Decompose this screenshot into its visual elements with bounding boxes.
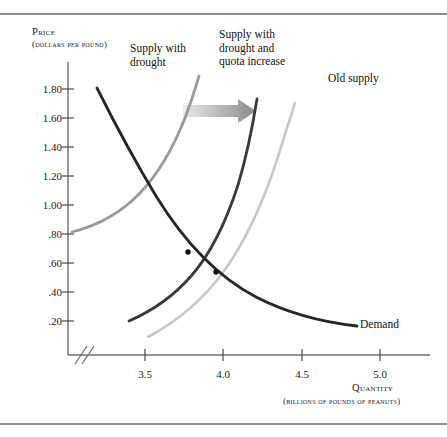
curve-old-supply [148, 103, 295, 337]
curve-supply-with-drought [72, 76, 199, 232]
equilibrium-point-lower [213, 269, 218, 274]
supply-shift-arrow-icon [183, 99, 256, 123]
equilibrium-point-upper [185, 249, 190, 254]
curve-demand [97, 88, 357, 326]
plot-canvas [0, 0, 447, 437]
economics-supply-demand-figure: Price (dollars per pound) Quantity (bill… [0, 0, 447, 437]
